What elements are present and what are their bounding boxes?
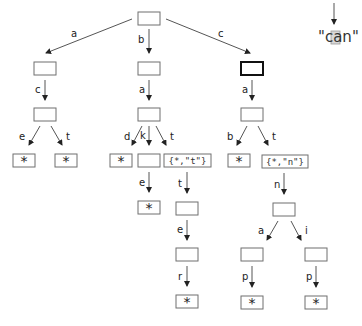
open-quote: " xyxy=(318,28,325,46)
node-ac xyxy=(34,108,56,121)
edge-label-ac-e: e xyxy=(19,131,25,142)
node-c-current xyxy=(241,62,263,75)
edge-label-a-c: c xyxy=(35,84,41,95)
edge-label-c-a: a xyxy=(242,84,248,95)
node-catna xyxy=(241,248,263,261)
edge-ba-t xyxy=(156,126,166,145)
edge-label-ca-b: b xyxy=(227,131,233,142)
edge-catn-i xyxy=(291,221,301,240)
svg-text:*: * xyxy=(184,294,191,310)
node-batte xyxy=(176,248,198,261)
edge-ac-e xyxy=(29,126,40,145)
close-quote: " xyxy=(352,28,359,46)
node-catnap-end: * xyxy=(241,295,263,311)
node-cat: {*,"n"} xyxy=(262,155,308,168)
edge-label-ba-k: k xyxy=(140,130,146,141)
node-batt xyxy=(176,202,198,215)
node-catn xyxy=(273,203,295,216)
node-catni xyxy=(305,248,327,261)
edge-catn-a xyxy=(267,221,278,240)
edge-root-c xyxy=(166,19,250,53)
edge-ca-t xyxy=(258,126,268,145)
node-ace-end: * xyxy=(13,153,35,169)
edge-label-bak-e: e xyxy=(139,177,145,188)
edge-label-root-b: b xyxy=(138,34,144,45)
edge-label-cat-n: n xyxy=(274,179,280,190)
edge-ca-b xyxy=(237,126,247,145)
edge-label-ac-t: t xyxy=(66,131,70,142)
node-catnip-end: * xyxy=(305,295,327,311)
node-ba xyxy=(138,108,160,121)
edge-label-catn-i: i xyxy=(305,225,308,236)
node-ca xyxy=(241,108,263,121)
svg-text:*: * xyxy=(236,153,243,169)
char-c: c xyxy=(325,28,333,46)
edge-label-catna-p: p xyxy=(242,271,248,282)
edge-root-a xyxy=(46,19,132,53)
svg-text:*: * xyxy=(313,295,320,311)
node-bake-end: * xyxy=(138,200,160,216)
char-a-highlighted: a xyxy=(333,28,342,46)
edge-label-batte-r: r xyxy=(178,271,183,282)
svg-text:{*,"n"}: {*,"n"} xyxy=(266,157,304,167)
word-indicator: "can" xyxy=(318,3,359,46)
node-bak xyxy=(138,154,160,167)
edge-label-root-c: c xyxy=(218,28,224,39)
node-bad-end: * xyxy=(110,153,132,169)
edge-label-catni-p: p xyxy=(306,271,312,282)
edge-label-ba-t: t xyxy=(170,131,174,142)
node-batter-end: * xyxy=(176,294,198,310)
node-bat: {*,"t"} xyxy=(164,154,211,167)
edge-label-catn-a: a xyxy=(258,225,264,236)
svg-text:"can": "can" xyxy=(318,28,359,46)
svg-text:*: * xyxy=(249,295,256,311)
node-cab-end: * xyxy=(228,153,250,169)
edge-label-b-a: a xyxy=(139,84,145,95)
svg-text:{*,"t"}: {*,"t"} xyxy=(169,156,207,166)
edge-label-root-a: a xyxy=(71,28,77,39)
edge-label-ba-d: d xyxy=(124,131,130,142)
svg-text:*: * xyxy=(63,153,70,169)
node-act-end: * xyxy=(55,153,77,169)
node-root xyxy=(138,12,160,25)
edge-label-batt-e: e xyxy=(177,224,183,235)
edge-ac-t xyxy=(51,126,62,145)
svg-text:*: * xyxy=(146,200,153,216)
svg-text:*: * xyxy=(118,153,125,169)
char-n: n xyxy=(342,28,352,46)
edge-label-bat-t: t xyxy=(178,178,182,189)
svg-text:*: * xyxy=(21,153,28,169)
node-b xyxy=(138,62,160,75)
node-a xyxy=(34,62,56,75)
trie-diagram: a b c c a a e t d k t b t * * * {*,"t"} xyxy=(0,0,362,326)
edge-label-ca-t: t xyxy=(272,131,276,142)
